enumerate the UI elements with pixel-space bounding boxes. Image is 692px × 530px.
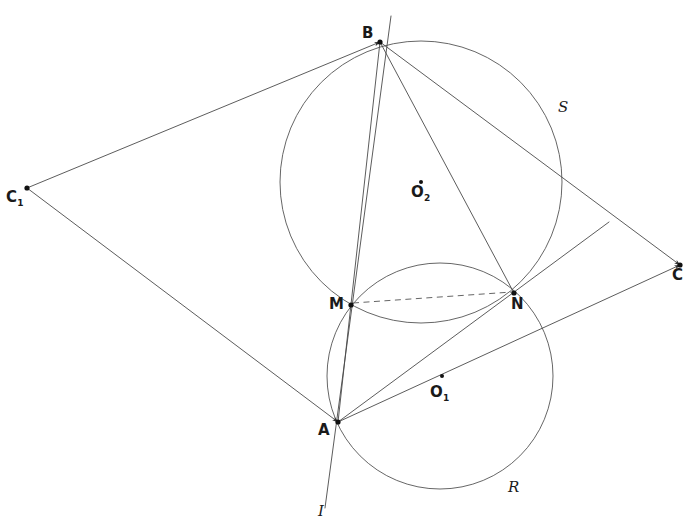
vertex-dot-C1 [24, 185, 29, 190]
point-label-M: M [329, 297, 344, 312]
segment-A-C [338, 265, 680, 422]
segment-B-N [380, 42, 514, 293]
line-B-M-I [325, 16, 391, 508]
dashed-chord-M-N [353, 292, 512, 303]
point-label-A: A [318, 423, 330, 438]
center-label-O1: O1 [430, 385, 449, 403]
point-label-N: N [511, 297, 524, 312]
circle-label-S: S [558, 100, 568, 115]
vertex-dot-M [348, 302, 353, 307]
circle-label-R: R [508, 480, 520, 495]
center-dot-O1 [440, 374, 444, 378]
point-label-B: B [362, 26, 374, 41]
line-A-N-ext [338, 222, 609, 422]
vertex-dot-A [335, 419, 340, 424]
segment-B-C [380, 42, 680, 265]
vertex-dot-B [377, 39, 382, 44]
segment-C1-A [27, 188, 338, 422]
center-label-O2: O2 [411, 185, 430, 203]
lines-group [27, 16, 680, 508]
axis-label-I: I [318, 504, 324, 519]
segment-C1-B [27, 42, 380, 188]
point-label-C: C [672, 268, 683, 283]
geometry-figure: BC1CMNAO2O1SRI [0, 0, 692, 530]
figure-canvas [0, 0, 692, 530]
point-label-C1: C1 [6, 190, 23, 208]
dashed-lines-group [353, 292, 512, 303]
vertex-dots-group [24, 39, 682, 424]
